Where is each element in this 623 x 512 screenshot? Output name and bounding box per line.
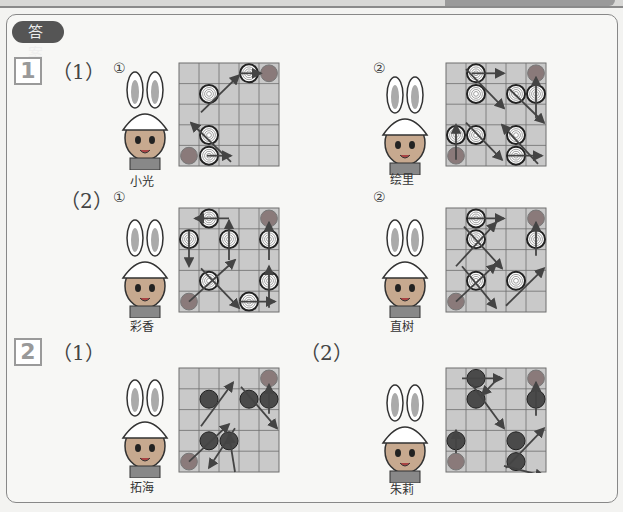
top-bar: [0, 0, 623, 8]
puzzle-grid: [178, 62, 280, 167]
character-illustration: [118, 70, 172, 170]
item-number: ②: [373, 189, 386, 205]
character-name: 小光: [130, 172, 154, 189]
puzzle-grid: [445, 62, 547, 167]
question-label-1-1: （1）: [52, 56, 105, 85]
character-illustration: [378, 218, 432, 318]
section-number-2: 2: [14, 338, 42, 366]
top-bar-tab: [445, 0, 615, 6]
question-label-2-2-text: （2）: [300, 337, 353, 366]
character-name: 拓海: [130, 478, 154, 495]
section-number-1: 1: [14, 57, 42, 85]
item-number: ②: [373, 60, 386, 76]
character-name: 绘里: [390, 170, 414, 187]
character-name: 彩香: [130, 317, 154, 334]
question-label-1-2: （2）: [60, 185, 113, 214]
character-name: 直树: [390, 317, 414, 334]
character-illustration: [378, 383, 432, 483]
character-name: 朱莉: [390, 480, 414, 497]
puzzle-grid: [178, 367, 280, 473]
puzzle-grid: [178, 207, 280, 313]
character-illustration: [378, 75, 432, 175]
puzzle-grid: [445, 367, 547, 473]
answer-badge: 答 案: [12, 21, 64, 43]
character-illustration: [118, 378, 172, 478]
item-number: ①: [113, 189, 126, 205]
puzzle-grid: [445, 207, 547, 313]
character-illustration: [118, 218, 172, 318]
question-label-2-1: （1）: [52, 337, 105, 366]
